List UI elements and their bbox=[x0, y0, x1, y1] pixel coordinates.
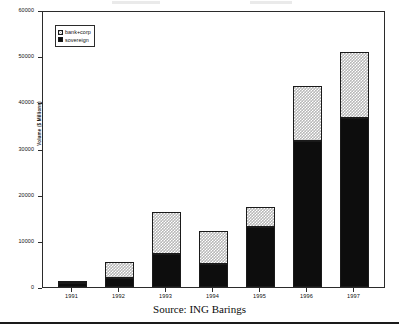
legend-label-bankcorp: bank+corp bbox=[65, 29, 91, 35]
bar-1993[interactable] bbox=[152, 10, 181, 287]
y-tick-label: 30000 bbox=[19, 146, 35, 152]
y-tick-label: 50000 bbox=[19, 53, 35, 59]
bar-1991[interactable] bbox=[58, 10, 87, 287]
bar-segment-sovereign[interactable] bbox=[152, 254, 181, 287]
x-tick-label-1994: 1994 bbox=[189, 293, 236, 299]
x-tick-label-1997: 1997 bbox=[330, 293, 377, 299]
bar-segment-sovereign[interactable] bbox=[293, 141, 322, 287]
chart-figure: Volume ($ Millions) 60000 50000 40000 30… bbox=[0, 0, 399, 334]
x-tick-mark bbox=[165, 288, 166, 292]
bar-segment-sovereign[interactable] bbox=[58, 283, 87, 287]
bar-1997[interactable] bbox=[340, 10, 369, 287]
y-tick-label: 20000 bbox=[19, 192, 35, 198]
page-artifact-right bbox=[250, 1, 292, 4]
legend-swatch-sovereign-icon bbox=[58, 37, 63, 42]
bar-1996[interactable] bbox=[293, 10, 322, 287]
x-tick-mark bbox=[353, 288, 354, 292]
legend-swatch-bankcorp-icon bbox=[58, 30, 63, 35]
y-tick-label: 60000 bbox=[19, 7, 35, 13]
x-tick-label-1992: 1992 bbox=[95, 293, 142, 299]
bar-segment-sovereign[interactable] bbox=[105, 278, 134, 287]
y-tick-mark bbox=[38, 288, 42, 289]
plot-area bbox=[42, 11, 385, 288]
source-caption: Source: ING Barings bbox=[0, 303, 399, 315]
bar-1995[interactable] bbox=[246, 10, 275, 287]
y-axis-label: Volume ($ Millions) bbox=[37, 78, 42, 170]
legend-item-sovereign[interactable]: sovereign bbox=[58, 36, 91, 43]
x-tick-label-1993: 1993 bbox=[142, 293, 189, 299]
page-artifact-left bbox=[112, 1, 160, 4]
bar-1994[interactable] bbox=[199, 10, 228, 287]
bar-segment-bankcorp[interactable] bbox=[152, 212, 181, 254]
x-tick-mark bbox=[118, 288, 119, 292]
bar-segment-bankcorp[interactable] bbox=[105, 262, 134, 278]
bar-segment-bankcorp[interactable] bbox=[246, 207, 275, 227]
bar-1992[interactable] bbox=[105, 10, 134, 287]
x-tick-mark bbox=[306, 288, 307, 292]
bar-segment-bankcorp[interactable] bbox=[293, 86, 322, 141]
bar-segment-sovereign[interactable] bbox=[340, 118, 369, 287]
legend-item-bankcorp[interactable]: bank+corp bbox=[58, 29, 91, 36]
y-tick-label: 40000 bbox=[19, 99, 35, 105]
bar-segment-sovereign[interactable] bbox=[246, 227, 275, 287]
x-tick-label-1996: 1996 bbox=[283, 293, 330, 299]
bar-segment-bankcorp[interactable] bbox=[340, 52, 369, 118]
x-tick-label-1991: 1991 bbox=[48, 293, 95, 299]
x-tick-label-1995: 1995 bbox=[236, 293, 283, 299]
bar-segment-bankcorp[interactable] bbox=[199, 231, 228, 264]
footer-divider bbox=[0, 322, 399, 324]
y-tick-label: 10000 bbox=[19, 238, 35, 244]
x-tick-mark bbox=[212, 288, 213, 292]
y-tick-label: 0 bbox=[31, 284, 34, 290]
x-tick-mark bbox=[71, 288, 72, 292]
x-tick-mark bbox=[259, 288, 260, 292]
legend-label-sovereign: sovereign bbox=[65, 37, 89, 43]
chart-legend: bank+corp sovereign bbox=[55, 25, 95, 47]
bar-segment-sovereign[interactable] bbox=[199, 264, 228, 287]
